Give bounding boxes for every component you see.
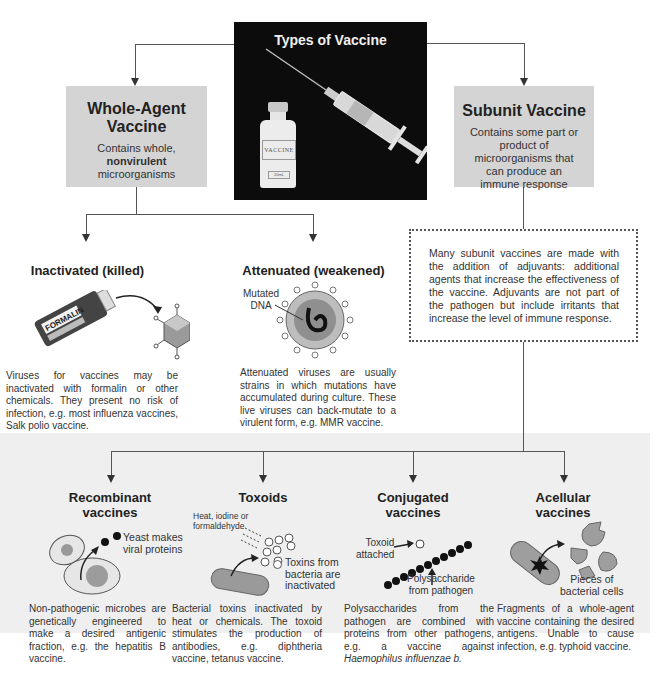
arrow-down-icon: [520, 78, 528, 86]
connector-line: [135, 44, 234, 45]
toxin-legend-circle: [273, 560, 282, 569]
whole-agent-desc-bold: nonvirulent: [107, 155, 167, 167]
polysaccharide-label-line1: Polysaccharide: [407, 573, 475, 585]
yeast-label-line1: Yeast makes: [123, 532, 183, 544]
whole-agent-box: Whole-Agent Vaccine Contains whole, nonv…: [66, 86, 207, 187]
recombinant-title: Recombinant vaccines: [60, 490, 160, 520]
arrow-down-icon: [107, 475, 115, 483]
arrow-down-icon: [409, 475, 417, 483]
whole-agent-title-line1: Whole-Agent: [66, 100, 207, 118]
inactivated-title: Inactivated (killed): [20, 263, 155, 278]
subunit-title: Subunit Vaccine: [454, 102, 594, 120]
connector-line: [427, 43, 525, 44]
polysaccharide-label: Polysaccharide from pathogen: [407, 573, 475, 596]
title-panel: Types of Vaccine VACCINE 20mL: [234, 22, 427, 200]
toxoids-desc: Bacterial toxins inactivated by heat or …: [172, 603, 322, 666]
attenuated-title: Attenuated (weakened): [236, 263, 391, 278]
arrow-down-icon: [560, 475, 568, 483]
attenuated-virus-illustration: [275, 280, 355, 360]
yeast-label: Yeast makes viral proteins: [123, 532, 183, 555]
toxin-label: Toxins from bacteria are inactivated: [285, 557, 340, 592]
yeast-label-line2: viral proteins: [123, 544, 183, 556]
formalin-bottle-virus-illustration: FORMALIN: [30, 290, 190, 360]
connector-line: [564, 451, 565, 477]
acellular-desc: Fragments of a whole-agent vaccine conta…: [497, 603, 634, 653]
bacterial-pieces-label: Pieces of bacterial cells: [560, 574, 624, 597]
whole-agent-title-line2: Vaccine: [66, 118, 207, 136]
connector-line: [111, 451, 565, 452]
connector-line: [313, 214, 314, 236]
connector-line: [136, 187, 137, 215]
polysaccharide-label-line2: from pathogen: [407, 585, 475, 597]
connector-line: [111, 451, 112, 477]
conjugated-desc-text: Polysaccharides from the pathogen are co…: [344, 603, 494, 652]
mutated-dna-label-line2: DNA: [243, 300, 279, 312]
arrow-down-icon: [131, 78, 139, 86]
connector-line: [523, 187, 524, 229]
arrow-down-icon: [309, 234, 317, 242]
vial-sublabel: 20mL: [268, 171, 290, 179]
conjugated-title-line1: Conjugated: [363, 490, 463, 505]
conjugated-title: Conjugated vaccines: [363, 490, 463, 520]
mutated-dna-label: Mutated DNA: [243, 288, 279, 311]
connector-line: [263, 451, 264, 477]
vaccine-vial: VACCINE 20mL: [258, 102, 298, 188]
recombinant-desc: Non-pathogenic microbes are genetically …: [29, 603, 166, 666]
bacterial-pieces-label-line1: Pieces of: [560, 574, 624, 586]
attenuated-desc: Attenuated viruses are usually strains i…: [240, 367, 396, 430]
vial-label: VACCINE: [262, 140, 296, 160]
subunit-desc: Contains some part or product of microor…: [454, 126, 594, 191]
toxin-label-line1: Toxins from: [285, 557, 340, 569]
conjugated-desc: Polysaccharides from the pathogen are co…: [344, 603, 494, 666]
arrow-down-icon: [259, 475, 267, 483]
mutated-dna-label-line1: Mutated: [243, 288, 279, 300]
connector-line: [523, 340, 524, 452]
subunit-box: Subunit Vaccine Contains some part or pr…: [454, 86, 594, 187]
acellular-title: Acellular vaccines: [513, 490, 613, 520]
connector-line: [86, 214, 313, 215]
recombinant-title-line1: Recombinant: [60, 490, 160, 505]
connector-line: [135, 44, 136, 80]
acellular-title-line1: Acellular: [513, 490, 613, 505]
inactivated-desc: Viruses for vaccines may be inactivated …: [6, 370, 178, 433]
conjugated-desc-italic: Haemophilus influenzae b.: [344, 653, 462, 664]
connector-line: [524, 43, 525, 80]
toxin-label-line3: inactivated: [285, 580, 340, 592]
adjuvant-note-box: Many subunit vaccines are made with the …: [409, 229, 638, 342]
conjugated-title-line2: vaccines: [363, 505, 463, 520]
bacterial-pieces-label-line2: bacterial cells: [560, 586, 624, 598]
toxoids-title: Toxoids: [213, 490, 313, 505]
arrow-down-icon: [82, 234, 90, 242]
whole-agent-desc-suffix: microorganisms: [98, 168, 176, 180]
connector-line: [413, 451, 414, 477]
connector-line: [86, 214, 87, 236]
whole-agent-desc-prefix: Contains whole,: [97, 142, 175, 154]
adjuvant-note: Many subunit vaccines are made with the …: [429, 247, 619, 325]
recombinant-title-line2: vaccines: [60, 505, 160, 520]
